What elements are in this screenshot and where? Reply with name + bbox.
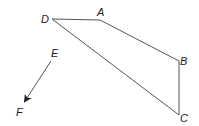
label-e: E (51, 47, 59, 59)
label-f: F (16, 106, 24, 118)
label-a: A (96, 6, 104, 18)
label-c: C (180, 112, 188, 124)
vector-ef (25, 61, 51, 101)
diagram-canvas: D A B C E F (0, 0, 199, 126)
quadrilateral-dabc (52, 19, 179, 115)
label-d: D (41, 13, 49, 25)
label-b: B (180, 55, 187, 67)
